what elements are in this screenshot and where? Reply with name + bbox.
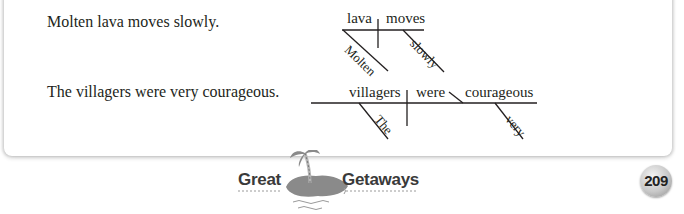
diagram2-verb: were xyxy=(416,84,445,101)
page-number-badge: 209 xyxy=(640,165,672,197)
diagram2-predicate-adjective: courageous xyxy=(465,84,533,101)
diagram2-subject: villagers xyxy=(349,84,401,101)
diagram1-verb: moves xyxy=(386,10,425,27)
logo-word-getaways: Getaways xyxy=(342,170,419,190)
diagram1-subject: lava xyxy=(347,10,372,27)
great-getaways-logo: Great Getaways xyxy=(238,150,438,214)
